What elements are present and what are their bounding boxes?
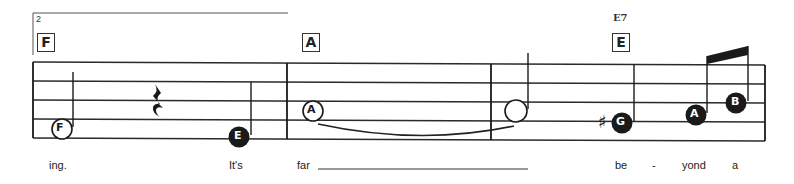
sharp-icon: ♯	[598, 111, 607, 132]
tie	[318, 124, 514, 136]
note-letter-g: G	[616, 115, 625, 128]
lyric-ing: ing.	[49, 159, 67, 171]
lyric-hyphen: -	[652, 159, 656, 171]
music-staff	[0, 0, 794, 184]
chord-name-e7: E7	[613, 12, 628, 23]
lyric-yond: yond	[682, 159, 706, 171]
chord-box-a: A	[302, 33, 320, 52]
lyric-a: a	[732, 159, 738, 171]
note-letter-b: B	[731, 95, 739, 108]
staff-lines	[33, 62, 765, 141]
chord-box-f: F	[37, 33, 55, 52]
measure-bracket	[33, 13, 288, 55]
note-letter-a: A	[307, 103, 316, 116]
note-letter-e: E	[234, 129, 242, 142]
chord-box-e: E	[612, 33, 630, 52]
lyric-be: be	[615, 159, 627, 171]
note-letter-f: F	[56, 121, 64, 134]
measure-number: 2	[36, 14, 41, 24]
beam	[707, 46, 748, 64]
lyric-far: far	[297, 159, 310, 171]
lyric-its: It's	[229, 159, 243, 171]
note-letter-a-filled: A	[690, 107, 699, 120]
